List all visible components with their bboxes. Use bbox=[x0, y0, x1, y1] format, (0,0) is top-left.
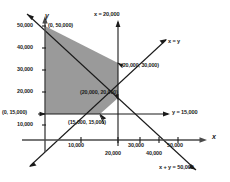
y-axis-label: y bbox=[45, 12, 49, 19]
point-label-0-50000: (0, 50,000) bbox=[48, 23, 73, 28]
y-tick-label-20000: 20,000 bbox=[17, 89, 33, 94]
line-label-x-equals-y: x = y bbox=[168, 39, 180, 45]
line-label-y-equals-15000: y = 15,000 bbox=[172, 110, 198, 116]
point-label-0-15000: (0, 15,000) bbox=[2, 110, 27, 115]
arrowhead-y-equals-15000 bbox=[163, 112, 170, 117]
y-tick-label-50000: 50,000 bbox=[17, 23, 33, 28]
point-label-15000-15000: (15,000, 15,000) bbox=[68, 120, 106, 125]
line-label-x-plus-y-equals-50000: x + y = 50,000 bbox=[159, 165, 194, 171]
y-tick-label-10000: 10,000 bbox=[17, 122, 33, 127]
point-label-20000-20000: (20,000, 20,000) bbox=[80, 90, 118, 95]
arrowhead-x-equals-20000 bbox=[116, 20, 121, 27]
point-label-20000-30000: (20,000, 30,000) bbox=[121, 63, 159, 68]
line-label-x-equals-20000: x = 20,000 bbox=[94, 12, 120, 18]
x-tick-label-30000: 30,000 bbox=[128, 143, 144, 148]
x-tick-label-50000: 50,000 bbox=[167, 143, 183, 148]
y-tick-label-40000: 40,000 bbox=[17, 45, 33, 50]
feasible-region-figure: y x 50,000 40,000 30,000 20,000 10,000 1… bbox=[0, 0, 230, 182]
arrowhead-x-axis bbox=[200, 137, 208, 142]
x-tick-label-40000: 40,000 bbox=[146, 151, 162, 156]
x-axis-label: x bbox=[212, 133, 216, 140]
shaded-feasible-region bbox=[45, 26, 118, 114]
x-tick-label-20000: 20,000 bbox=[105, 151, 121, 156]
y-tick-label-30000: 30,000 bbox=[17, 67, 33, 72]
x-tick-label-10000: 10,000 bbox=[68, 143, 84, 148]
